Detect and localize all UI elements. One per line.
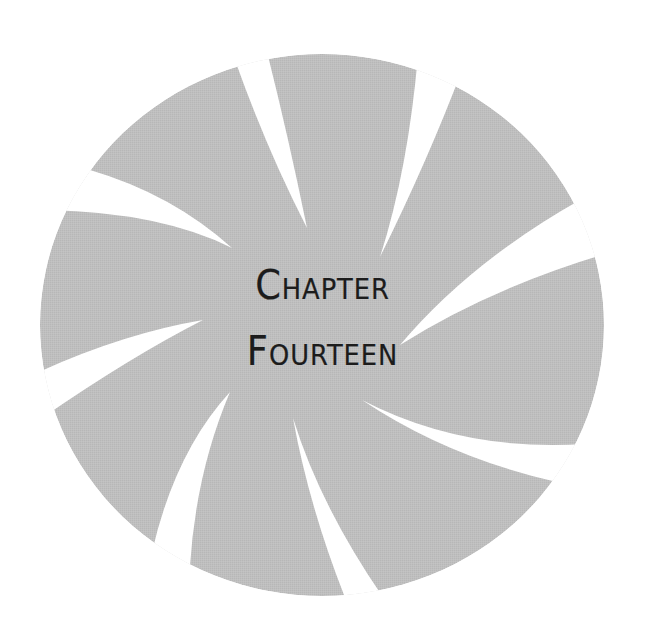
chapter-number: Fourteen <box>26 331 619 371</box>
chapter-label: Chapter <box>26 265 619 305</box>
pinwheel-swirl-icon <box>0 0 645 643</box>
